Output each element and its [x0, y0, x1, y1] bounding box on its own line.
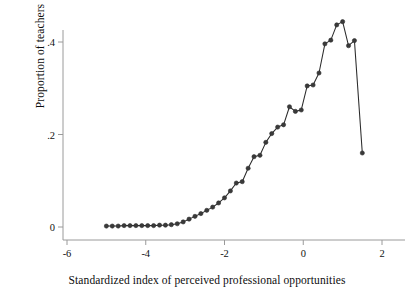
data-point-marker: [216, 201, 220, 205]
data-point-marker: [287, 105, 291, 109]
data-point-marker: [122, 224, 126, 228]
data-point-marker: [199, 211, 203, 215]
data-point-marker: [104, 224, 108, 228]
tick-marks-group: [58, 42, 382, 245]
data-line: [106, 22, 362, 226]
data-point-marker: [152, 224, 156, 228]
data-point-marker: [360, 151, 364, 155]
x-tick-label: 0: [301, 248, 306, 259]
chart-plot-area: [0, 0, 414, 289]
data-point-marker: [157, 223, 161, 227]
data-point-marker: [252, 155, 256, 159]
data-point-marker: [163, 223, 167, 227]
data-point-marker: [187, 217, 191, 221]
data-point-marker: [258, 153, 262, 157]
data-point-marker: [110, 224, 114, 228]
data-point-marker: [222, 196, 226, 200]
data-point-marker: [311, 83, 315, 87]
data-point-marker: [240, 180, 244, 184]
data-point-marker: [335, 23, 339, 27]
data-point-marker: [341, 20, 345, 24]
axes-group: [63, 30, 405, 240]
data-point-marker: [234, 181, 238, 185]
data-point-marker: [140, 224, 144, 228]
data-point-marker: [317, 71, 321, 75]
chart-figure: 0.2.4 -6-4-202 Proportion of teachers St…: [0, 0, 414, 289]
y-tick-label: 0: [35, 222, 55, 233]
x-tick-label: 2: [379, 248, 384, 259]
data-point-marker: [305, 84, 309, 88]
data-point-markers: [104, 20, 364, 229]
data-point-marker: [228, 189, 232, 193]
data-point-marker: [281, 123, 285, 127]
data-point-marker: [134, 224, 138, 228]
data-point-marker: [246, 166, 250, 170]
x-tick-label: -2: [220, 248, 229, 259]
data-point-marker: [116, 224, 120, 228]
data-point-marker: [293, 109, 297, 113]
data-point-marker: [146, 224, 150, 228]
data-point-marker: [299, 108, 303, 112]
data-point-marker: [128, 224, 132, 228]
data-point-marker: [211, 205, 215, 209]
data-point-marker: [346, 44, 350, 48]
x-tick-label: -6: [63, 248, 72, 259]
data-point-marker: [329, 38, 333, 42]
data-point-marker: [169, 223, 173, 227]
data-point-marker: [264, 140, 268, 144]
data-point-marker: [276, 125, 280, 129]
data-point-marker: [193, 214, 197, 218]
data-point-marker: [352, 39, 356, 43]
y-axis-title: Proportion of teachers: [32, 0, 48, 166]
data-point-marker: [205, 208, 209, 212]
data-point-marker: [270, 131, 274, 135]
x-tick-label: -4: [141, 248, 150, 259]
x-axis-title: Standardized index of perceived professi…: [0, 274, 414, 286]
data-point-marker: [175, 222, 179, 226]
data-point-marker: [323, 42, 327, 46]
data-point-marker: [181, 220, 185, 224]
